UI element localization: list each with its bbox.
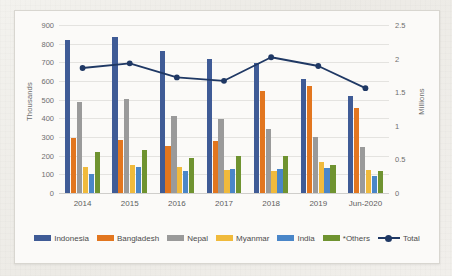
legend-label: Myanmar	[236, 234, 269, 243]
legend-item[interactable]: Myanmar	[216, 234, 269, 243]
bar	[95, 152, 100, 193]
bar	[171, 116, 176, 193]
y-axis-title-right: Millions	[417, 74, 426, 130]
y-tick-label-left: 100	[41, 174, 54, 183]
bar	[112, 37, 117, 193]
y-tick-label-right: 2	[395, 59, 399, 68]
y-axis-title-left: Thousands	[25, 74, 34, 130]
bar	[378, 171, 383, 193]
bar	[177, 167, 182, 193]
bar	[124, 99, 129, 193]
bar	[218, 119, 223, 193]
legend-swatch	[277, 235, 294, 241]
bar-group	[153, 25, 200, 193]
legend-item[interactable]: India	[277, 234, 314, 243]
y-tick-label-left: 800	[41, 44, 54, 53]
legend-item[interactable]: Bangladesh	[97, 234, 159, 243]
bar	[348, 96, 353, 193]
bar	[354, 108, 359, 193]
y-tick-label-right: 0	[395, 193, 399, 202]
bar	[183, 171, 188, 193]
bar	[136, 167, 141, 193]
plot-area-wrapper: Thousands Millions 010020030040050060070…	[15, 11, 439, 223]
bar	[372, 176, 377, 193]
bar	[260, 91, 265, 193]
gridline	[59, 193, 389, 194]
x-tick-label: 2019	[309, 199, 327, 208]
bar	[213, 141, 218, 193]
bar-group	[106, 25, 153, 193]
y-tick-label-right: 2.5	[395, 25, 405, 34]
x-tick-label: 2017	[215, 199, 233, 208]
y-tick-label-right: 1	[395, 126, 399, 135]
x-tick-label: 2018	[262, 199, 280, 208]
bar	[313, 137, 318, 193]
y-tick-label-right: 0.5	[395, 159, 405, 168]
legend-label: Total	[403, 234, 420, 243]
y-tick-label-left: 300	[41, 137, 54, 146]
bar	[283, 156, 288, 193]
y-tick-label-left: 400	[41, 118, 54, 127]
plot-canvas: 0100200300400500600700800900 00.511.522.…	[59, 25, 389, 193]
y-tick-label-right: 1.5	[395, 92, 405, 101]
bar	[65, 40, 70, 193]
legend-line-marker	[378, 233, 400, 243]
bar	[189, 158, 194, 193]
y-tick-label-left: 200	[41, 156, 54, 165]
x-tick-label: 2015	[121, 199, 139, 208]
legend-label: *Others	[343, 234, 370, 243]
y-tick-label-left: 0	[50, 193, 54, 202]
legend-item[interactable]: Indonesia	[34, 234, 89, 243]
bar-group	[248, 25, 295, 193]
bar	[230, 169, 235, 193]
bar	[165, 146, 170, 193]
x-tick-label: Jun-2020	[349, 199, 382, 208]
bar	[89, 174, 94, 193]
legend-item[interactable]: Nepal	[167, 234, 208, 243]
legend-swatch	[167, 235, 184, 241]
bar	[71, 138, 76, 193]
legend-swatch	[97, 235, 114, 241]
bar	[360, 147, 365, 193]
legend-label: Indonesia	[54, 234, 89, 243]
bar-group	[295, 25, 342, 193]
bar	[207, 59, 212, 193]
bar	[130, 165, 135, 193]
legend-swatch	[34, 235, 51, 241]
bar	[301, 79, 306, 193]
legend-label: India	[297, 234, 314, 243]
bar	[271, 171, 276, 193]
bar	[224, 170, 229, 193]
bar	[307, 86, 312, 193]
bar	[319, 162, 324, 193]
bar	[160, 51, 165, 193]
bar	[236, 156, 241, 193]
bar	[77, 102, 82, 193]
chart-card: Thousands Millions 010020030040050060070…	[14, 10, 440, 264]
legend-swatch	[323, 235, 340, 241]
y-tick-label-left: 600	[41, 81, 54, 90]
bar	[118, 140, 123, 193]
x-tick-label: 2016	[168, 199, 186, 208]
legend-label: Bangladesh	[117, 234, 159, 243]
legend-swatch	[216, 235, 233, 241]
x-tick-label: 2014	[74, 199, 92, 208]
bar	[254, 63, 259, 193]
bar	[324, 168, 329, 193]
bar	[277, 169, 282, 193]
legend-label: Nepal	[187, 234, 208, 243]
y-tick-label-left: 500	[41, 100, 54, 109]
bar-group	[59, 25, 106, 193]
legend-item[interactable]: *Others	[323, 234, 370, 243]
bar	[366, 170, 371, 193]
y-tick-label-left: 700	[41, 62, 54, 71]
bar	[330, 165, 335, 193]
bar-group	[200, 25, 247, 193]
bar	[142, 150, 147, 193]
y-tick-label-left: 900	[41, 25, 54, 34]
bar-group	[342, 25, 389, 193]
legend-item[interactable]: Total	[378, 233, 420, 243]
chart-legend: IndonesiaBangladeshNepalMyanmarIndia*Oth…	[15, 233, 439, 243]
bar	[266, 129, 271, 193]
bar	[83, 167, 88, 194]
